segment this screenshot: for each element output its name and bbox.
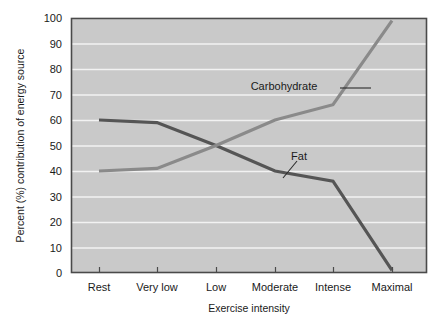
x-tick-label: Intense — [315, 281, 351, 293]
y-tick-label: 20 — [50, 216, 62, 228]
y-tick-label: 50 — [50, 140, 62, 152]
x-axis-tick-labels: RestVery lowLowModerateIntenseMaximal — [88, 281, 413, 293]
y-tick-label: 10 — [50, 242, 62, 254]
y-axis-tick-labels: 0102030405060708090100 — [44, 12, 62, 279]
y-tick-label: 100 — [44, 12, 62, 24]
x-tick-label: Very low — [136, 281, 178, 293]
annotation-label-fat: Fat — [291, 150, 307, 162]
x-axis-title: Exercise intensity — [208, 302, 290, 314]
y-axis-title: Percent (%) contribution of energy sourc… — [14, 48, 26, 242]
y-tick-label: 0 — [56, 267, 62, 279]
y-tick-label: 80 — [50, 63, 62, 75]
x-tick-label: Rest — [88, 281, 111, 293]
x-tick-label: Maximal — [372, 281, 413, 293]
x-tick-label: Moderate — [252, 281, 298, 293]
y-tick-label: 70 — [50, 89, 62, 101]
chart-figure: 0102030405060708090100 RestVery lowLowMo… — [0, 0, 444, 322]
line-chart: 0102030405060708090100 RestVery lowLowMo… — [0, 0, 444, 322]
y-tick-label: 90 — [50, 38, 62, 50]
y-tick-label: 40 — [50, 165, 62, 177]
x-tick-label: Low — [206, 281, 226, 293]
annotation-label-carbohydrate: Carbohydrate — [251, 80, 318, 92]
y-tick-label: 60 — [50, 114, 62, 126]
y-tick-label: 30 — [50, 191, 62, 203]
